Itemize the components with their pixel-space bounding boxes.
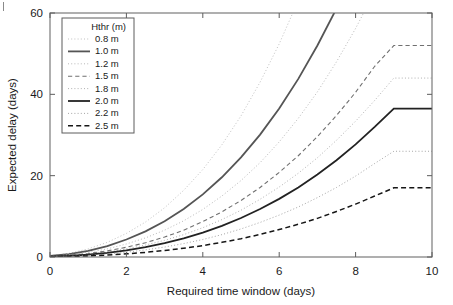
x-tick-label: 8 [352, 265, 358, 277]
x-tick-label: 10 [426, 265, 439, 277]
legend-label-1-0-m: 1.0 m [95, 45, 119, 56]
chart-figure: 02468100204060 Required time window (day… [0, 0, 453, 305]
x-tick-label: 4 [200, 265, 207, 277]
scan-artifact-mark [3, 2, 4, 11]
legend-label-2-5-m: 2.5 m [95, 120, 119, 131]
legend-title: Hthr (m) [91, 21, 126, 32]
legend: Hthr (m) 0.8 m1.0 m1.2 m1.5 m1.8 m2.0 m2… [62, 18, 134, 133]
y-tick-label: 0 [37, 251, 43, 263]
legend-label-2-2-m: 2.2 m [95, 107, 119, 118]
chart-svg: 02468100204060 Required time window (day… [0, 0, 453, 305]
y-tick-label: 40 [30, 88, 43, 100]
legend-label-2-0-m: 2.0 m [95, 95, 119, 106]
x-tick-label: 2 [123, 265, 129, 277]
x-tick-label: 0 [47, 265, 53, 277]
legend-label-1-2-m: 1.2 m [95, 58, 119, 69]
y-tick-label: 20 [30, 170, 43, 182]
x-tick-label: 6 [276, 265, 282, 277]
legend-label-1-8-m: 1.8 m [95, 83, 119, 94]
x-axis-title: Required time window (days) [167, 285, 315, 297]
y-tick-label: 60 [30, 7, 43, 19]
legend-label-0-8-m: 0.8 m [95, 33, 119, 44]
legend-label-1-5-m: 1.5 m [95, 70, 119, 81]
y-axis-title: Expected delay (days) [6, 78, 18, 192]
